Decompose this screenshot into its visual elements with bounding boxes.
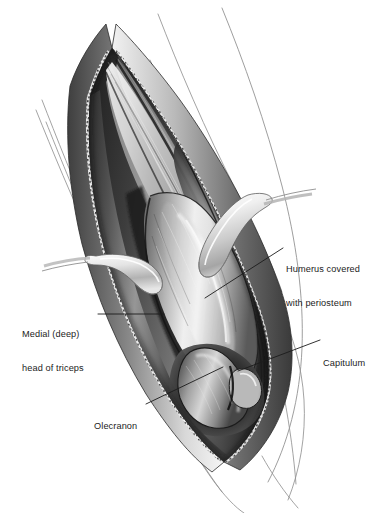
anatomical-figure: Humerus covered with periosteum Medial (… [0, 0, 387, 513]
label-olecranon: Olecranon [94, 398, 137, 455]
label-capitulum-line1: Capitulum [323, 358, 365, 369]
label-triceps-line1: Medial (deep) [22, 329, 84, 340]
label-humerus-line2: with periosteum [286, 298, 360, 309]
label-humerus-covered-with-periosteum: Humerus covered with periosteum [286, 241, 360, 332]
label-medial-deep-head-of-triceps: Medial (deep) head of triceps [22, 306, 84, 397]
label-capitulum: Capitulum [323, 335, 365, 392]
label-olecranon-line1: Olecranon [94, 421, 137, 432]
label-triceps-line2: head of triceps [22, 363, 84, 374]
label-humerus-line1: Humerus covered [286, 264, 360, 275]
